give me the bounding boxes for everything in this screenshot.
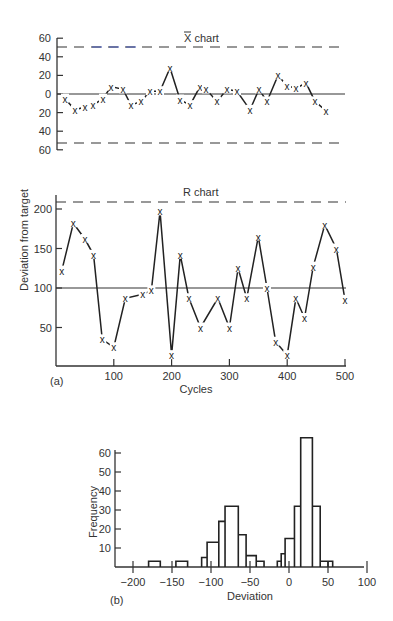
svg-text:x: x [198,323,203,334]
svg-text:x: x [248,105,253,116]
svg-text:x: x [121,84,126,95]
svg-text:100: 100 [34,282,52,294]
svg-text:x: x [91,100,96,111]
svg-text:x: x [215,293,220,304]
svg-text:x: x [188,100,193,111]
svg-text:x: x [178,250,183,261]
svg-text:40: 40 [99,485,111,497]
svg-text:300: 300 [220,370,238,382]
svg-text:x: x [100,334,105,345]
xbar-chart-title: X chart [184,32,219,44]
svg-text:x: x [140,289,145,300]
svg-text:x: x [158,206,163,217]
svg-text:x: x [324,106,329,117]
svg-text:x: x [178,95,183,106]
svg-text:x: x [343,295,348,306]
svg-text:50: 50 [40,322,52,334]
svg-text:x: x [236,263,241,274]
svg-text:50: 50 [99,466,111,478]
svg-text:20: 20 [99,523,111,535]
svg-text:0: 0 [45,88,51,100]
svg-text:x: x [73,105,78,116]
r-markers: xxxxxxxxxxxxxxxxxxxxxxxxxxxx [58,206,349,361]
svg-text:x: x [149,285,154,296]
svg-text:x: x [71,218,76,229]
svg-text:x: x [148,86,153,97]
svg-text:x: x [59,266,64,277]
svg-text:x: x [304,78,309,89]
svg-text:x: x [225,84,230,95]
svg-text:60: 60 [39,32,51,44]
svg-text:x: x [83,102,88,113]
frequency-axis-label: Frequency [87,486,99,538]
svg-text:x: x [285,350,290,361]
r-chart-title: R chart [183,186,218,198]
svg-text:x: x [215,96,220,107]
svg-text:x: x [129,100,134,111]
panel-a-label: (a) [50,375,63,387]
svg-text:x: x [169,350,174,361]
histogram: 102030405060−200−150−100−50050100 Freque… [87,438,376,606]
svg-text:x: x [276,70,281,81]
svg-text:50: 50 [322,576,334,588]
svg-text:x: x [139,96,144,107]
svg-text:x: x [244,293,249,304]
svg-text:x: x [302,313,307,324]
svg-text:400: 400 [278,370,296,382]
svg-text:x: x [101,94,106,105]
svg-text:60: 60 [99,447,111,459]
svg-text:150: 150 [34,243,52,255]
r-chart: 50100150200100200300400500 R chart xxxxx… [34,186,355,395]
svg-text:x: x [198,82,203,93]
svg-text:x: x [334,244,339,255]
svg-text:x: x [293,293,298,304]
cycles-axis-label: Cycles [179,383,213,395]
svg-text:x: x [111,342,116,353]
svg-text:20: 20 [39,69,51,81]
svg-text:x: x [256,232,261,243]
svg-text:x: x [273,337,278,348]
svg-text:x: x [257,84,262,95]
svg-text:100: 100 [358,576,376,588]
svg-text:x: x [285,81,290,92]
svg-text:x: x [265,96,270,107]
svg-text:x: x [235,86,240,97]
svg-text:x: x [168,63,173,74]
svg-text:10: 10 [99,542,111,554]
svg-text:x: x [63,94,68,105]
svg-text:200: 200 [34,203,52,215]
control-charts-figure: 6040200204060 X chart xxxxxxxxxxxxxxxxxx… [0,0,393,621]
svg-text:x: x [204,84,209,95]
panel-b-label: (b) [110,594,123,606]
svg-text:x: x [322,220,327,231]
svg-text:100: 100 [105,370,123,382]
svg-text:−150: −150 [160,576,185,588]
svg-text:−50: −50 [241,576,260,588]
svg-text:0: 0 [286,576,292,588]
svg-text:x: x [227,323,232,334]
y-axis-label: Deviation from target [18,189,30,291]
svg-text:x: x [311,262,316,273]
svg-text:x: x [313,96,318,107]
svg-text:x: x [158,86,163,97]
svg-text:x: x [91,250,96,261]
deviation-axis-label: Deviation [227,590,273,602]
svg-text:30: 30 [99,504,111,516]
svg-text:x: x [82,234,87,245]
svg-text:500: 500 [336,370,354,382]
svg-text:x: x [109,82,114,93]
svg-text:20: 20 [39,107,51,119]
svg-text:−200: −200 [121,576,146,588]
r-axis-ticks: 50100150200100200300400500 [34,203,355,382]
svg-text:x: x [186,293,191,304]
svg-text:40: 40 [39,125,51,137]
svg-text:x: x [294,83,299,94]
svg-text:40: 40 [39,51,51,63]
svg-text:x: x [264,283,269,294]
xbar-markers: xxxxxxxxxxxxxxxxxxxxxxxxxxxx [61,63,330,117]
svg-text:x: x [123,293,128,304]
svg-text:60: 60 [39,144,51,156]
xbar-chart: 6040200204060 X chart xxxxxxxxxxxxxxxxxx… [39,32,345,156]
svg-text:200: 200 [162,370,180,382]
histogram-bars [149,438,333,567]
